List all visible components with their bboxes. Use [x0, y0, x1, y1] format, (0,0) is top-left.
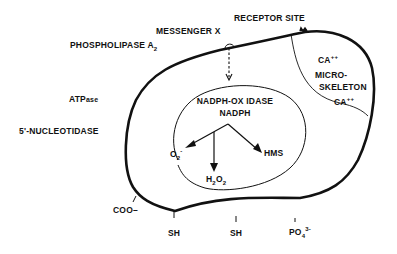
- superoxide-superscript: -: [180, 148, 182, 154]
- sh-right-label: SH: [230, 229, 242, 238]
- ca-bottom-label: CA++: [334, 98, 354, 107]
- atpase-main: ATP: [69, 94, 86, 104]
- phosphate-superscript: 3-: [305, 226, 311, 232]
- superoxide-subscript: 2: [177, 155, 181, 161]
- reaction-arrows: [190, 124, 258, 166]
- carboxyl-tick: [133, 196, 136, 202]
- phospholipase-text: PHOSPHOLIPASE A: [70, 40, 154, 50]
- receptor-site-notch: [300, 28, 307, 31]
- cell-diagram: MESSENGER X RECEPTOR SITE PHOSPHOLIPASE …: [0, 0, 397, 254]
- nadph-oxidase-label: NADPH-OX IDASE: [193, 97, 277, 106]
- hms-label: HMS: [264, 149, 284, 158]
- peroxide-label: H2O2: [206, 175, 226, 184]
- peroxide-subscript-2: 2: [223, 180, 227, 186]
- sh-left-label: SH: [168, 229, 180, 238]
- arrowhead-peroxide: [210, 163, 218, 172]
- arrowhead-superoxide: [185, 140, 196, 148]
- arrowhead-hms: [253, 143, 262, 153]
- atpase-label: ATPase: [69, 95, 98, 104]
- receptor-site-label: RECEPTOR SITE: [234, 14, 305, 23]
- phospholipase-label: PHOSPHOLIPASE A2: [70, 41, 157, 50]
- phosphate-label: PO43-: [289, 228, 311, 237]
- nadph-label: NADPH: [213, 109, 257, 118]
- atpase-suffix: ase: [86, 96, 98, 103]
- skeleton-label: SKELETON: [319, 83, 367, 92]
- ca-bottom-superscript: ++: [347, 96, 354, 102]
- ca-top-label: CA++: [318, 56, 338, 65]
- phosphate-subscript: 4: [302, 233, 306, 239]
- micro-label: MICRO-: [315, 71, 347, 80]
- superoxide-label: O2-: [170, 150, 183, 159]
- ca-top-superscript: ++: [331, 54, 338, 60]
- phosphate-text: PO: [289, 227, 302, 237]
- superoxide-o: O: [170, 149, 177, 159]
- messenger-x-label: MESSENGER X: [156, 27, 221, 36]
- peroxide-o: O: [216, 174, 223, 184]
- carboxyl-label: COO–: [113, 206, 138, 215]
- nucleotidase-label: 5'-NUCLEOTIDASE: [19, 127, 99, 136]
- ca-top-text: CA: [318, 55, 331, 65]
- ca-bottom-text: CA: [334, 97, 347, 107]
- phospholipase-subscript: 2: [154, 46, 158, 52]
